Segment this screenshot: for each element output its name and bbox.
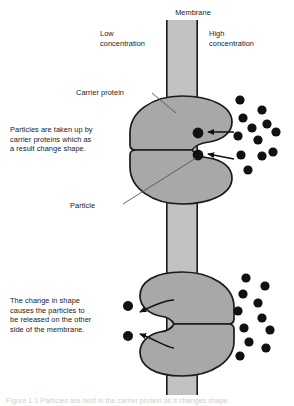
label-particle: Particle xyxy=(70,201,122,211)
particle-cluster-upper-right xyxy=(233,95,280,174)
lower-carrier-protein xyxy=(123,272,234,376)
annotation-uptake: Particles are taken up by carrier protei… xyxy=(10,125,134,154)
label-high-concentration: High concentration xyxy=(209,29,275,48)
carrier-protein-diagram xyxy=(0,0,294,406)
upper-carrier-protein xyxy=(130,96,234,204)
figure-caption: Figure 1.1 Particles are held in the car… xyxy=(6,396,292,406)
label-carrier-protein: Carrier protein xyxy=(76,88,150,98)
label-low-concentration: Low concentration xyxy=(100,29,162,48)
annotation-release: The change in shape causes the particles… xyxy=(10,296,130,334)
label-membrane: Membrane xyxy=(158,8,228,18)
particle-in-pocket xyxy=(193,128,204,139)
diagram-figure: Membrane Low concentration High concentr… xyxy=(0,0,294,406)
particle-cluster-lower-right xyxy=(233,273,274,360)
